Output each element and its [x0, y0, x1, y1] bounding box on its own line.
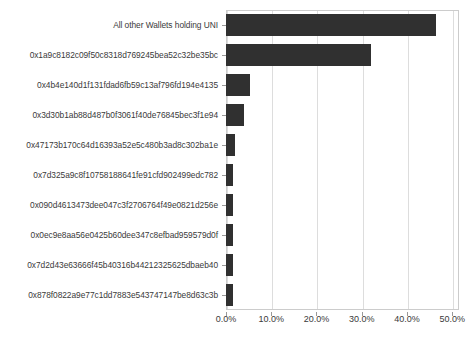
x-axis-tick-label: 50.0% — [439, 314, 465, 324]
bar-row — [226, 130, 459, 160]
x-axis-tick-label: 30.0% — [349, 314, 375, 324]
bar-chart: All other Wallets holding UNI0x1a9c8182c… — [0, 0, 471, 346]
y-axis-tick-text: All other Wallets holding UNI — [113, 20, 218, 30]
bar-row — [226, 160, 459, 190]
bar-row — [226, 40, 459, 70]
y-axis-tick-label: 0x878f0822a9e77c1dd7883e543747147be8d63c… — [0, 280, 222, 310]
y-axis-tick-text: 0x4b4e140d1f131fdad6fb59c13af796fd194e41… — [37, 80, 218, 90]
y-axis-tick-label: 0x090d4613473dee047c3f2706764f49e0821d25… — [0, 190, 222, 220]
y-axis-tick-text: 0x3d30b1ab88d487b0f3061f40de76845bec3f1e… — [32, 110, 218, 120]
y-axis-tick-label: 0x7d2d43e63666f45b40316b44212325625dbaeb… — [0, 250, 222, 280]
bar-row — [226, 70, 459, 100]
bar — [226, 254, 233, 276]
y-axis-tick-label: 0x4b4e140d1f131fdad6fb59c13af796fd194e41… — [0, 70, 222, 100]
bar-row — [226, 250, 459, 280]
bar — [226, 284, 233, 306]
y-axis-tick-label: 0x47173b170c64d16393a52e5c480b3ad8c302ba… — [0, 130, 222, 160]
bar-row — [226, 10, 459, 40]
bar — [226, 14, 436, 36]
y-axis-tick-label: All other Wallets holding UNI — [0, 10, 222, 40]
x-axis-tick-label: 20.0% — [304, 314, 330, 324]
bar — [226, 44, 371, 66]
y-axis-tick-label: 0x0ec9e8aa56e0425b60dee347c8efbad959579d… — [0, 220, 222, 250]
bar — [226, 194, 233, 216]
y-axis-tick-text: 0x0ec9e8aa56e0425b60dee347c8efbad959579d… — [31, 230, 218, 240]
x-axis-tick-label: 10.0% — [258, 314, 284, 324]
bar-row — [226, 220, 459, 250]
bar — [226, 74, 250, 96]
y-axis-tick-text: 0x090d4613473dee047c3f2706764f49e0821d25… — [30, 200, 218, 210]
bar-row — [226, 190, 459, 220]
y-axis-tick-label: 0x1a9c8182c09f50c8318d769245bea52c32be35… — [0, 40, 222, 70]
bar — [226, 104, 244, 126]
bar — [226, 164, 233, 186]
y-axis-tick-label: 0x3d30b1ab88d487b0f3061f40de76845bec3f1e… — [0, 100, 222, 130]
y-axis-tick-text: 0x7d325a9c8f10758188641fe91cfd902499edc7… — [33, 170, 218, 180]
y-axis-labels: All other Wallets holding UNI0x1a9c8182c… — [0, 10, 222, 310]
bar — [226, 224, 233, 246]
bar-row — [226, 280, 459, 310]
y-axis-tick-text: 0x878f0822a9e77c1dd7883e543747147be8d63c… — [28, 290, 218, 300]
y-axis-tick-label: 0x7d325a9c8f10758188641fe91cfd902499edc7… — [0, 160, 222, 190]
y-axis-tick-text: 0x47173b170c64d16393a52e5c480b3ad8c302ba… — [26, 140, 218, 150]
x-axis-labels: 0.0%10.0%20.0%30.0%40.0%50.0% — [226, 312, 459, 332]
bar-row — [226, 100, 459, 130]
y-axis-tick-text: 0x7d2d43e63666f45b40316b44212325625dbaeb… — [27, 260, 218, 270]
x-axis-tick-label: 0.0% — [216, 314, 237, 324]
y-axis-tick-text: 0x1a9c8182c09f50c8318d769245bea52c32be35… — [30, 50, 218, 60]
x-axis-tick-label: 40.0% — [394, 314, 420, 324]
bar — [226, 134, 235, 156]
bars-layer — [226, 10, 459, 310]
